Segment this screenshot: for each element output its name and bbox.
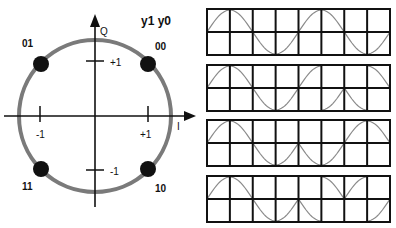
point-00 — [140, 56, 156, 72]
i-tick-neg: -1 — [36, 129, 45, 140]
point-11 — [33, 161, 49, 177]
waveform-row-4 — [207, 176, 390, 222]
waveform-row-2 — [207, 65, 390, 111]
point-01 — [33, 56, 49, 72]
point-label-00: 00 — [155, 41, 167, 52]
q-tick-pos: +1 — [110, 57, 122, 68]
q-axis-label: Q — [100, 26, 108, 37]
i-tick-pos: +1 — [140, 129, 152, 140]
point-label-10: 10 — [155, 183, 167, 194]
i-axis-arrow-icon — [184, 111, 196, 121]
waveform-row-1 — [207, 9, 390, 55]
waveform-row-3 — [207, 120, 390, 166]
i-axis-label: I — [177, 121, 180, 132]
point-label-11: 11 — [22, 181, 33, 192]
constellation-diagram: Q I +1 -1 -1 +1 y1 y0 00 01 11 10 — [4, 14, 196, 207]
bit-order-title: y1 y0 — [141, 14, 171, 28]
point-10 — [140, 161, 156, 177]
qpsk-diagram: Q I +1 -1 -1 +1 y1 y0 00 01 11 10 — [0, 0, 396, 228]
q-tick-neg: -1 — [110, 166, 119, 177]
q-axis-arrow-icon — [90, 14, 100, 27]
point-label-01: 01 — [22, 38, 34, 49]
waveform-panels — [207, 9, 390, 222]
